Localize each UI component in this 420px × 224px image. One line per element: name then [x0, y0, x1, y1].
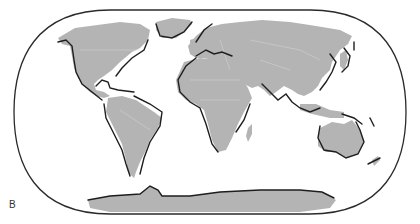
- panel-label: B: [9, 199, 16, 210]
- world-map: [0, 0, 420, 224]
